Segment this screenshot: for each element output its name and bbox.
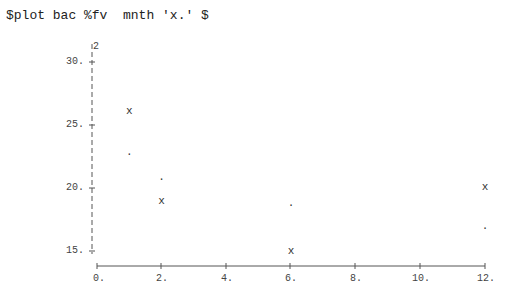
data-point-bac: x — [158, 196, 165, 207]
x-tick-label: 10. — [412, 273, 430, 284]
data-point-fv: . — [482, 221, 489, 232]
y-tick-label: 20. — [50, 182, 84, 193]
y-axis-marker: 2 — [93, 41, 99, 52]
data-point-fv: . — [126, 147, 133, 158]
x-tick-label: 0. — [93, 273, 105, 284]
x-tick-label: 2. — [156, 273, 168, 284]
data-point-bac: x — [288, 246, 295, 257]
y-tick-label: 30. — [50, 56, 84, 67]
x-tick-label: 8. — [350, 273, 362, 284]
x-tick-label: 12. — [477, 273, 495, 284]
y-tick-label: 25. — [50, 119, 84, 130]
data-point-bac: x — [126, 106, 133, 117]
y-tick-label: 15. — [50, 245, 84, 256]
data-point-fv: . — [158, 172, 165, 183]
data-point-bac: x — [482, 182, 489, 193]
data-point-fv: . — [288, 198, 295, 209]
x-tick-label: 6. — [285, 273, 297, 284]
x-tick-label: 4. — [221, 273, 233, 284]
